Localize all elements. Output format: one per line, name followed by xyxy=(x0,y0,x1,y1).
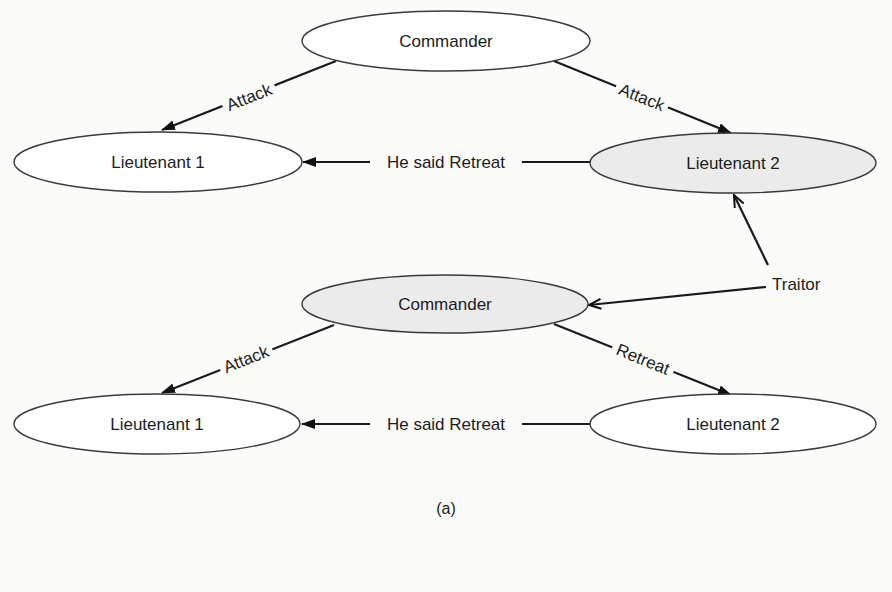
edge-label: He said Retreat xyxy=(387,415,505,434)
node-bottom-lieutenant2: Lieutenant 2 xyxy=(590,394,876,454)
node-top-commander: Commander xyxy=(302,11,590,71)
node-label: Lieutenant 2 xyxy=(686,154,780,173)
traitor-pointer-bottom xyxy=(589,287,766,305)
traitor-pointer-top xyxy=(734,195,768,265)
edge-label: Attack xyxy=(616,80,667,116)
node-label: Commander xyxy=(398,295,492,314)
edge-bottom-lieutenant2-to-lieutenant1: He said Retreat xyxy=(302,412,590,436)
edge-top-commander-to-lieutenant2: Attack xyxy=(554,61,731,133)
edge-label: He said Retreat xyxy=(387,153,505,172)
node-bottom-commander-traitor: Commander xyxy=(302,275,588,333)
diagram-canvas: Attack Attack He said Retreat Commander xyxy=(0,0,892,592)
node-label: Commander xyxy=(399,32,493,51)
node-top-lieutenant2-traitor: Lieutenant 2 xyxy=(590,133,876,193)
scenario-bottom: Attack Retreat He said Retreat Commander xyxy=(14,275,876,454)
figure-caption: (a) xyxy=(436,500,456,517)
node-label: Lieutenant 2 xyxy=(686,415,780,434)
edge-bottom-commander-to-lieutenant1: Attack xyxy=(162,325,334,393)
edge-top-lieutenant2-to-lieutenant1: He said Retreat xyxy=(303,150,590,174)
traitor-annotation: Traitor xyxy=(589,195,821,305)
scenario-top: Attack Attack He said Retreat Commander xyxy=(14,11,876,193)
node-label: Lieutenant 1 xyxy=(110,415,204,434)
edge-bottom-commander-to-lieutenant2: Retreat xyxy=(554,324,731,395)
traitor-label: Traitor xyxy=(772,275,821,294)
diagram-svg: Attack Attack He said Retreat Commander xyxy=(0,0,892,592)
edge-top-commander-to-lieutenant1: Attack xyxy=(162,61,336,130)
node-top-lieutenant1: Lieutenant 1 xyxy=(14,132,302,192)
node-bottom-lieutenant1: Lieutenant 1 xyxy=(14,394,300,454)
node-label: Lieutenant 1 xyxy=(111,153,205,172)
edge-label: Retreat xyxy=(613,340,672,379)
